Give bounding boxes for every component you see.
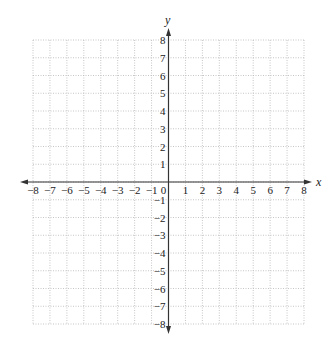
y-tick-label: 4 [160, 105, 166, 117]
y-tick-label: −5 [154, 265, 166, 277]
x-tick-label: 7 [284, 184, 290, 196]
y-axis-top-arrow-icon [166, 28, 171, 36]
x-tick-label: −3 [112, 184, 124, 196]
x-tick-label: −6 [61, 184, 73, 196]
x-tick-label: 4 [234, 184, 240, 196]
y-tick-label: −7 [154, 300, 166, 312]
y-tick-label: 2 [160, 141, 166, 153]
y-axis-bottom-arrow-icon [166, 326, 171, 334]
y-tick-label: 8 [160, 34, 166, 46]
y-tick-label: −2 [154, 212, 166, 224]
y-tick-label: −4 [154, 247, 166, 259]
x-tick-label: −5 [78, 184, 90, 196]
x-tick-label: −8 [27, 184, 39, 196]
x-axis-label: x [315, 175, 322, 189]
y-tick-label: 5 [160, 87, 166, 99]
y-tick-label: −8 [154, 318, 166, 330]
y-tick-label: 1 [160, 158, 166, 170]
x-tick-label: 1 [183, 184, 189, 196]
x-tick-label: 2 [200, 184, 206, 196]
x-tick-labels: −8−7−6−5−4−3−2−1012345678 [27, 184, 307, 196]
x-tick-label: 3 [217, 184, 223, 196]
x-tick-label: −4 [95, 184, 107, 196]
y-tick-label: −1 [154, 194, 166, 206]
x-tick-label: −2 [129, 184, 141, 196]
x-tick-label: 6 [267, 184, 273, 196]
y-tick-label: 7 [160, 52, 166, 64]
y-tick-label: 3 [160, 123, 166, 135]
y-tick-label: −3 [154, 229, 166, 241]
axes: x y [20, 13, 322, 334]
x-tick-label: 8 [301, 184, 307, 196]
x-tick-label: 5 [250, 184, 256, 196]
y-tick-label: 6 [160, 70, 166, 82]
y-axis-label: y [164, 13, 171, 27]
x-tick-label: −7 [44, 184, 56, 196]
coordinate-plane: x y −8−7−6−5−4−3−2−1012345678 12345678−1… [0, 0, 331, 354]
y-tick-label: −6 [154, 283, 166, 295]
